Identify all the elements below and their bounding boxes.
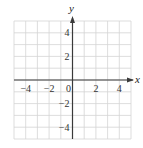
y-tick-label: −2 [59, 98, 70, 109]
x-tick-label: 4 [117, 83, 122, 94]
x-tick-label: 0 [66, 83, 71, 94]
x-tick-label: 2 [93, 83, 98, 94]
y-axis-arrow-icon [70, 16, 75, 23]
y-tick-label: 2 [65, 51, 70, 62]
y-tick-label: 4 [65, 27, 70, 38]
y-axis-label: y [68, 2, 74, 14]
axes [14, 16, 134, 139]
x-tick-label: −2 [44, 83, 55, 94]
coordinate-plane: −4−202442−2−4 y x [0, 0, 143, 148]
x-axis-label: x [134, 73, 140, 85]
y-tick-label: −4 [59, 122, 70, 133]
x-tick-label: −4 [20, 83, 31, 94]
x-axis-arrow-icon [127, 78, 134, 83]
